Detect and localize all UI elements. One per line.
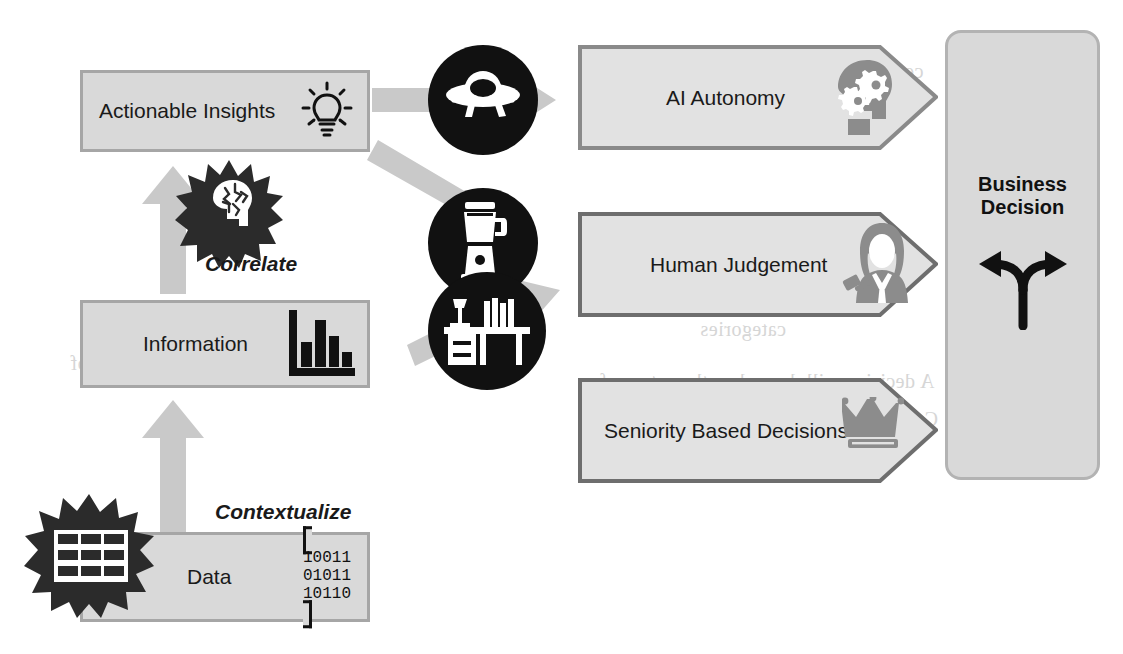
ai-autonomy-chevron[interactable]: AI Autonomy xyxy=(578,45,938,150)
data-label: Data xyxy=(187,565,231,589)
correlate-label: Correlate xyxy=(205,252,297,276)
seniority-label: Seniority Based Decisions xyxy=(604,419,848,443)
contextualize-label: Contextualize xyxy=(215,500,352,524)
binary-line-2: 01011 xyxy=(303,568,351,586)
business-decision-line-1: Business xyxy=(948,173,1097,196)
diagram-canvas: ceed when there are two conflicting busi… xyxy=(0,0,1123,654)
information-label: Information xyxy=(143,332,248,356)
actionable-insights-label: Actionable Insights xyxy=(99,99,275,123)
information-box[interactable]: Information xyxy=(80,300,370,388)
binary-line-3: 10110 xyxy=(303,586,351,604)
business-decision-line-2: Decision xyxy=(948,196,1097,219)
forked-arrows-icon xyxy=(948,238,1097,330)
lightbulb-icon xyxy=(301,81,353,141)
actionable-insights-box[interactable]: Actionable Insights xyxy=(80,70,370,152)
binary-code-icon: 10011 01011 10110 xyxy=(303,530,351,624)
spreadsheet-grid-burst-icon xyxy=(24,492,154,622)
desk-lamp-books-circle[interactable] xyxy=(428,272,546,390)
crown-icon xyxy=(842,397,904,455)
ai-autonomy-label: AI Autonomy xyxy=(666,86,785,110)
seniority-based-decisions-chevron[interactable]: Seniority Based Decisions xyxy=(578,378,938,483)
judge-gavel-icon xyxy=(842,221,918,309)
head-with-gears-icon xyxy=(830,57,896,139)
human-judgement-chevron[interactable]: Human Judgement xyxy=(578,212,938,317)
bar-chart-icon xyxy=(289,308,355,380)
binary-line-1: 10011 xyxy=(303,550,351,568)
ufo-icon xyxy=(444,69,522,131)
human-judgement-label: Human Judgement xyxy=(650,253,827,277)
bleed-text-5: categories xyxy=(700,318,786,341)
desk-lamp-books-icon xyxy=(444,293,530,369)
binary-code-box: 10011 01011 10110 xyxy=(303,526,351,628)
ufo-circle[interactable] xyxy=(428,45,538,155)
business-decision-panel[interactable]: Business Decision xyxy=(945,30,1100,480)
